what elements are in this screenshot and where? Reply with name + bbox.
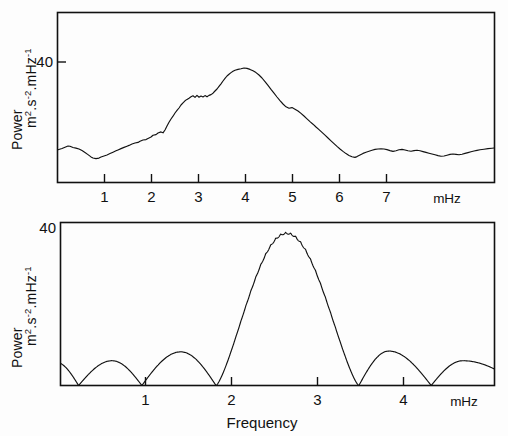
top-panel-frame: [58, 13, 495, 183]
top-panel-y-axis-units: m2.s-2.mHz-1: [22, 48, 39, 128]
top-panel-x-unit-label: mHz: [433, 191, 461, 206]
bottom-panel-xtick-label-1: 1: [141, 391, 149, 408]
panel-spectral-window: 40 1 2 3 4 mHz Frequency Power m2.s-2.mH…: [9, 219, 495, 431]
top-panel-xtick-label-2: 2: [147, 188, 155, 205]
panel-observed-power-spectrum: 40 1 2 3 4 5 6 7 mHz Power: [9, 13, 495, 207]
bottom-panel-xticks: [146, 377, 404, 386]
bottom-panel-xtick-label-4: 4: [399, 391, 407, 408]
top-panel-xtick-label-1: 1: [100, 188, 108, 205]
bottom-panel-xtick-label-3: 3: [313, 391, 321, 408]
top-panel-xtick-label-3: 3: [194, 188, 202, 205]
power-spectrum-figure: 40 1 2 3 4 5 6 7 mHz Power: [0, 0, 508, 436]
top-panel-xtick-label-7: 7: [382, 188, 390, 205]
bottom-panel-trace: [61, 232, 495, 385]
figure-root: 40 1 2 3 4 5 6 7 mHz Power: [0, 0, 508, 436]
bottom-panel-y-units-composed: m2.s-2.mHz-1: [22, 266, 39, 346]
bottom-panel-frame: [61, 223, 495, 386]
bottom-panel-ytick-label-40: 40: [39, 219, 56, 236]
top-panel-xticks: [105, 174, 387, 183]
bottom-panel-x-axis-title: Frequency: [227, 414, 298, 431]
top-panel-xtick-label-4: 4: [241, 188, 249, 205]
bottom-panel-xtick-label-2: 2: [227, 391, 235, 408]
top-panel-xtick-label-6: 6: [335, 188, 343, 205]
top-panel-trace: [58, 68, 494, 159]
top-panel-xtick-label-5: 5: [288, 188, 296, 205]
top-panel-y-units-composed: m2.s-2.mHz-1: [22, 48, 39, 128]
bottom-panel-x-unit-label: mHz: [450, 394, 478, 409]
bottom-panel-y-axis-units: m2.s-2.mHz-1: [22, 266, 39, 346]
